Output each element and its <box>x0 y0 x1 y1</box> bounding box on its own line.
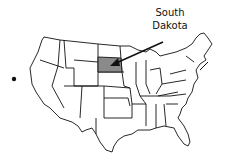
state-borders <box>40 40 194 134</box>
us-map <box>0 0 228 165</box>
island-dot <box>12 77 16 81</box>
us-outline <box>30 33 212 152</box>
label-arrow <box>114 42 163 64</box>
